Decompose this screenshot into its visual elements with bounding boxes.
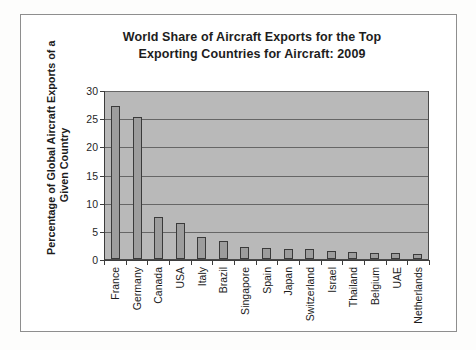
x-label-slot: Germany <box>126 265 148 343</box>
y-axis-title: Percentage of Global Aircraft Exports of… <box>45 75 71 255</box>
bar-germany[interactable] <box>133 117 142 259</box>
x-label-slot: Israel <box>321 265 343 343</box>
y-tick-label-20: 20 <box>86 141 98 153</box>
x-tick-label-netherlands: Netherlands <box>412 267 424 324</box>
x-tick-15 <box>429 261 430 265</box>
x-label-slot: USA <box>169 265 191 343</box>
bar-switzerland[interactable] <box>305 249 314 259</box>
x-label-slot: Spain <box>256 265 278 343</box>
x-label-slot: Singapore <box>234 265 256 343</box>
x-tick-label-thailand: Thailand <box>347 267 359 307</box>
bar-israel[interactable] <box>327 251 336 259</box>
bar-uae[interactable] <box>391 253 400 259</box>
x-label-slot: Canada <box>147 265 169 343</box>
y-tick-10 <box>100 204 104 205</box>
bar-thailand[interactable] <box>348 252 357 259</box>
y-tick-label-10: 10 <box>86 198 98 210</box>
bar-japan[interactable] <box>284 249 293 259</box>
y-tick-15 <box>100 176 104 177</box>
x-tick-label-spain: Spain <box>261 267 273 294</box>
bar-slot <box>299 92 321 259</box>
y-axis-title-line-1: Percentage of Global Aircraft Exports of… <box>45 41 57 255</box>
y-tick-label-25: 25 <box>86 113 98 125</box>
bar-slot <box>277 92 299 259</box>
x-label-slot: Thailand <box>342 265 364 343</box>
y-axis-title-line-2: Given Country <box>58 75 71 255</box>
x-label-slot: Japan <box>277 265 299 343</box>
bar-slot <box>342 92 364 259</box>
x-tick-label-brazil: Brazil <box>217 267 229 293</box>
x-label-slot: France <box>104 265 126 343</box>
y-axis: 051015202530 <box>104 91 105 261</box>
bar-slot <box>170 92 192 259</box>
bar-slot <box>363 92 385 259</box>
scanned-page: World Share of Aircraft Exports for the … <box>0 0 476 350</box>
chart-frame: World Share of Aircraft Exports for the … <box>20 14 457 332</box>
bar-spain[interactable] <box>262 248 271 259</box>
bar-canada[interactable] <box>154 217 163 259</box>
bar-belgium[interactable] <box>370 253 379 259</box>
x-axis-tick-labels: FranceGermanyCanadaUSAItalyBrazilSingapo… <box>104 265 429 343</box>
y-tick-label-0: 0 <box>92 254 98 266</box>
bar-slot <box>406 92 428 259</box>
bar-slot <box>127 92 149 259</box>
bar-italy[interactable] <box>197 237 206 259</box>
x-tick-label-germany: Germany <box>131 267 143 310</box>
x-label-slot: UAE <box>386 265 408 343</box>
bar-singapore[interactable] <box>240 247 249 259</box>
y-tick-25 <box>100 119 104 120</box>
bar-france[interactable] <box>111 106 120 259</box>
x-tick-label-france: France <box>109 267 121 300</box>
x-tick-label-switzerland: Switzerland <box>304 267 316 321</box>
bar-slot <box>148 92 170 259</box>
x-label-slot: Belgium <box>364 265 386 343</box>
x-label-slot: Brazil <box>212 265 234 343</box>
x-tick-label-italy: Italy <box>196 267 208 286</box>
y-tick-5 <box>100 232 104 233</box>
x-tick-label-belgium: Belgium <box>369 267 381 305</box>
chart-title-line-2: Exporting Countries for Aircraft: 2009 <box>67 46 437 63</box>
plot-area <box>104 91 429 260</box>
bar-slot <box>256 92 278 259</box>
x-label-slot: Netherlands <box>407 265 429 343</box>
x-tick-label-israel: Israel <box>326 267 338 293</box>
bar-brazil[interactable] <box>219 241 228 259</box>
y-tick-label-15: 15 <box>86 170 98 182</box>
y-tick-20 <box>100 147 104 148</box>
y-tick-30 <box>100 91 104 92</box>
bar-slot <box>213 92 235 259</box>
bar-slot <box>385 92 407 259</box>
bar-netherlands[interactable] <box>413 254 422 259</box>
y-tick-label-5: 5 <box>92 226 98 238</box>
x-tick-label-canada: Canada <box>152 267 164 304</box>
bar-slot <box>234 92 256 259</box>
chart-title-line-1: World Share of Aircraft Exports for the … <box>123 30 381 44</box>
bar-slot <box>105 92 127 259</box>
x-axis <box>104 260 430 261</box>
x-tick-label-singapore: Singapore <box>239 267 251 315</box>
x-label-slot: Italy <box>191 265 213 343</box>
y-tick-label-30: 30 <box>86 85 98 97</box>
bar-slot <box>320 92 342 259</box>
x-tick-label-uae: UAE <box>391 267 403 289</box>
bar-slot <box>191 92 213 259</box>
bar-usa[interactable] <box>176 223 185 259</box>
chart-title: World Share of Aircraft Exports for the … <box>67 29 437 63</box>
x-label-slot: Switzerland <box>299 265 321 343</box>
x-tick-label-japan: Japan <box>282 267 294 296</box>
bar-series <box>105 92 428 259</box>
x-tick-label-usa: USA <box>174 267 186 289</box>
